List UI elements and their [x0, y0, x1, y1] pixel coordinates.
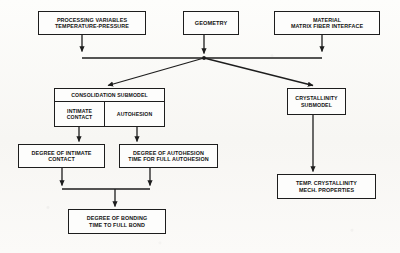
- node-geometry[interactable]: GEOMETRY: [183, 11, 239, 35]
- node-temp-result-line2: MECH. PROPERTIES: [299, 187, 354, 193]
- cell-intimate-contact[interactable]: INTIMATE CONTACT: [55, 102, 105, 126]
- edge-bus-to-crystallinity: [204, 58, 313, 86]
- consolidation-cells: INTIMATE CONTACT AUTOHESION: [55, 102, 164, 126]
- node-intimate-result-line2: CONTACT: [48, 156, 75, 162]
- cell-autohesion-line1: AUTOHESION: [117, 111, 153, 117]
- node-material-line2: MATRIX FIBER INTERFACE: [291, 23, 363, 29]
- node-geometry-line1: GEOMETRY: [195, 20, 228, 27]
- node-processing-line2: TEMPERATURE-PRESSURE: [55, 23, 129, 29]
- node-crystallinity-line2: SUBMODEL: [301, 102, 332, 108]
- node-degree-of-bonding[interactable]: DEGREE OF BONDING TIME TO FULL BOND: [68, 209, 166, 234]
- node-temp-crystallinity-properties[interactable]: TEMP. CRYSTALLINITY MECH. PROPERTIES: [277, 174, 376, 199]
- node-autohesion-result-line2: TIME FOR FULL AUTOHESION: [128, 156, 208, 162]
- edge-bus-to-consolidation: [108, 58, 204, 86]
- node-material[interactable]: MATERIAL MATRIX FIBER INTERFACE: [274, 11, 380, 35]
- node-consolidation-submodel[interactable]: CONSOLIDATION SUBMODEL INTIMATE CONTACT …: [54, 88, 165, 127]
- consolidation-header: CONSOLIDATION SUBMODEL: [55, 89, 164, 102]
- node-processing-variables[interactable]: PROCESSING VARIABLES TEMPERATURE-PRESSUR…: [38, 11, 146, 35]
- flowchart-canvas: PROCESSING VARIABLES TEMPERATURE-PRESSUR…: [0, 0, 400, 253]
- cell-intimate-line2: CONTACT: [67, 114, 93, 120]
- node-degree-of-intimate-contact[interactable]: DEGREE OF INTIMATE CONTACT: [18, 144, 105, 168]
- node-bonding-line2: TIME TO FULL BOND: [89, 222, 145, 228]
- node-crystallinity-submodel[interactable]: CRYSTALLINITY SUBMODEL: [287, 88, 346, 115]
- cell-autohesion[interactable]: AUTOHESION: [105, 102, 164, 126]
- node-degree-of-autohesion[interactable]: DEGREE OF AUTOHESION TIME FOR FULL AUTOH…: [119, 144, 218, 168]
